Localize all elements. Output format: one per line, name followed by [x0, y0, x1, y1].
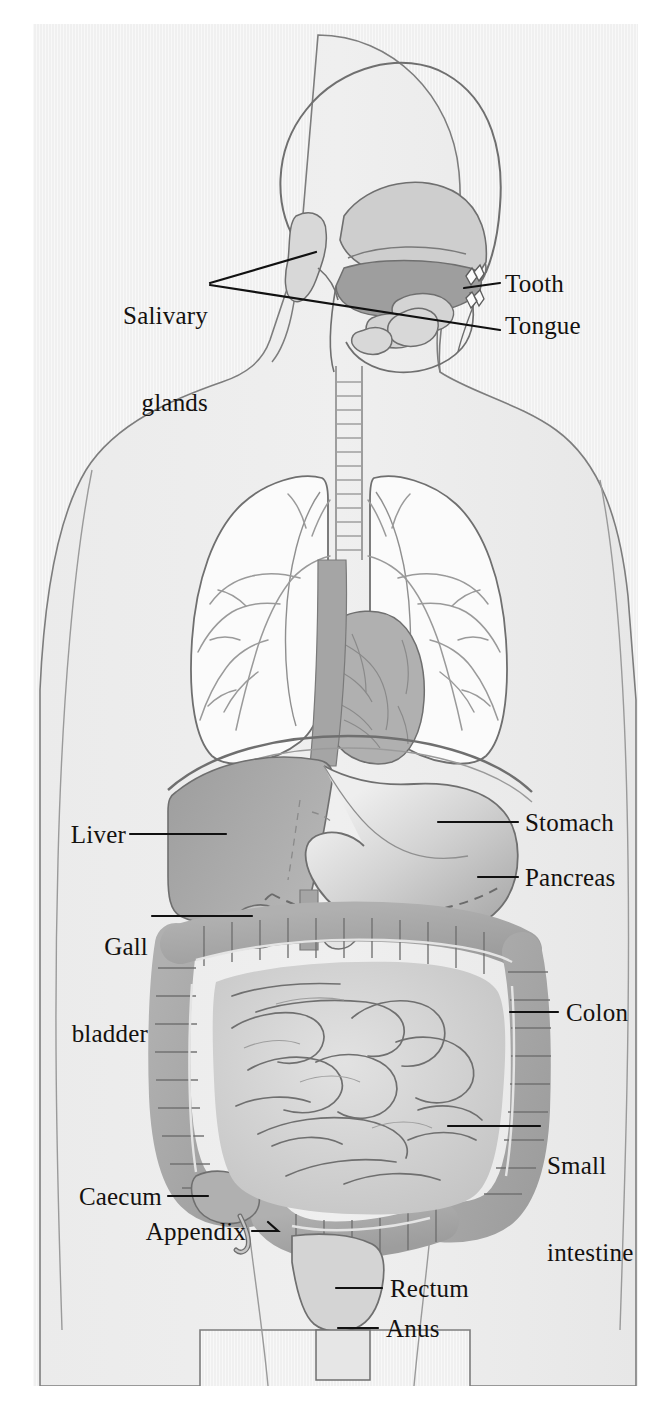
label-caecum: Caecum — [0, 1182, 162, 1211]
small-intestine — [213, 962, 506, 1215]
label-small-line1: Small — [547, 1151, 634, 1180]
label-gall-bladder: Gall bladder — [0, 874, 148, 1106]
figure-canvas: Salivary glands Tooth Tongue Liver Gall … — [0, 0, 670, 1412]
label-appendix: Appendix — [0, 1217, 246, 1246]
label-salivary-line1: Salivary — [58, 301, 208, 330]
label-salivary-glands: Salivary glands — [58, 243, 208, 475]
label-anus: Anus — [386, 1314, 440, 1343]
anus — [316, 1330, 370, 1380]
label-pancreas: Pancreas — [525, 863, 615, 892]
label-tooth: Tooth — [505, 269, 564, 298]
label-gall-line2: bladder — [0, 1019, 148, 1048]
label-colon: Colon — [566, 998, 628, 1027]
label-small-line2: intestine — [547, 1238, 634, 1267]
label-stomach: Stomach — [525, 808, 614, 837]
label-rectum: Rectum — [390, 1274, 469, 1303]
label-small-intestine: Small intestine — [547, 1093, 634, 1325]
label-gall-line1: Gall — [0, 932, 148, 961]
label-liver: Liver — [0, 820, 126, 849]
label-salivary-line2: glands — [58, 388, 208, 417]
label-tongue: Tongue — [505, 311, 581, 340]
